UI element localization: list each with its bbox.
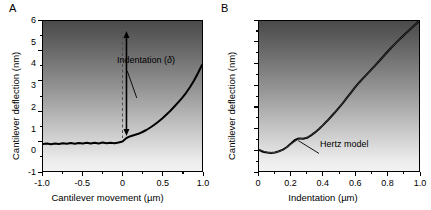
panel-b-x-axis-label: Indentation (µm) [215, 192, 431, 203]
panel-a-data-layer [43, 21, 202, 171]
y-axis-minor-tick [256, 117, 258, 118]
x-axis-tick [122, 172, 123, 176]
y-axis-tick [38, 80, 42, 81]
x-axis-tick [258, 172, 259, 176]
x-axis-tick-label: -1.0 [34, 178, 50, 188]
y-axis-tick [254, 150, 258, 151]
panel-a-x-axis-label: Cantilever movement (µm) [0, 192, 215, 203]
x-axis-minor-tick [306, 172, 307, 174]
y-axis-tick [254, 63, 258, 64]
indentation-annotation-text: Indentation ( [117, 55, 167, 65]
y-axis-tick [38, 20, 42, 21]
y-axis-minor-tick [40, 156, 42, 157]
y-axis-tick [38, 141, 42, 142]
y-axis-tick-label: 0 [31, 145, 36, 155]
y-axis-minor-tick [256, 30, 258, 31]
x-axis-tick [82, 172, 83, 176]
y-axis-tick-label: 3 [31, 80, 36, 90]
x-axis-minor-tick [182, 172, 183, 174]
x-axis-minor-tick [102, 172, 103, 174]
indentation-arrow-head-bottom [124, 129, 130, 136]
x-axis-minor-tick [274, 172, 275, 174]
panel-b-plot-area [258, 20, 420, 172]
y-axis-tick [254, 106, 258, 107]
x-axis-minor-tick [403, 172, 404, 174]
y-axis-tick-label: 1 [31, 124, 36, 134]
x-axis-tick-label: 0 [120, 178, 125, 188]
x-axis-tick-label: 0.8 [381, 178, 394, 188]
x-axis-tick-label: 1.0 [414, 178, 427, 188]
data-curve [259, 21, 419, 153]
x-axis-tick-label: 1.0 [197, 178, 210, 188]
y-axis-minor-tick [256, 52, 258, 53]
x-axis-tick-label: 0 [255, 178, 260, 188]
y-axis-minor-tick [40, 35, 42, 36]
x-axis-tick-label: 0.6 [349, 178, 362, 188]
x-axis-minor-tick [339, 172, 340, 174]
x-axis-tick [322, 172, 323, 176]
x-axis-tick [355, 172, 356, 176]
y-axis-tick [38, 111, 42, 112]
panel-b-y-axis-label: Cantilever deflection (nm) [226, 52, 237, 160]
y-axis-tick-label: 4 [31, 58, 36, 68]
x-axis-tick [162, 172, 163, 176]
y-axis-tick [38, 50, 42, 51]
panel-a-y-axis-label: Cantilever deflection (nm) [10, 52, 21, 160]
x-axis-tick [290, 172, 291, 176]
y-axis-tick [254, 85, 258, 86]
y-axis-minor-tick [256, 161, 258, 162]
indentation-annotation-close: ) [172, 55, 175, 65]
panel-a-indentation-annotation: Indentation (δ) [117, 55, 175, 65]
y-axis-minor-tick [40, 126, 42, 127]
y-axis-minor-tick [40, 65, 42, 66]
x-axis-minor-tick [142, 172, 143, 174]
data-curve [259, 21, 419, 153]
annotation-leader-line [298, 141, 319, 154]
x-axis-tick-label: 0.5 [156, 178, 169, 188]
panel-a-label: A [9, 2, 17, 14]
indentation-arrow-head-top [124, 31, 130, 38]
panel-b: B 6543210-100.20.40.60.81.0 Cantilever d… [215, 0, 431, 210]
x-axis-tick-label: 0.2 [284, 178, 297, 188]
y-axis-tick [254, 41, 258, 42]
x-axis-tick [420, 172, 421, 176]
y-axis-tick-label: 5 [31, 37, 36, 47]
y-axis-tick-label: 6 [31, 15, 36, 25]
y-axis-tick-label: 2 [31, 102, 36, 112]
annotation-leader-line [127, 71, 137, 98]
x-axis-tick-label: 0.4 [317, 178, 330, 188]
y-axis-minor-tick [256, 74, 258, 75]
figure-container: A 129630-3-1.0-0.500.51.0 Cantilever def… [0, 0, 431, 210]
x-axis-tick [203, 172, 204, 176]
y-axis-minor-tick [256, 139, 258, 140]
x-axis-minor-tick [371, 172, 372, 174]
x-axis-tick [387, 172, 388, 176]
x-axis-minor-tick [62, 172, 63, 174]
panel-b-label: B [221, 2, 229, 14]
y-axis-minor-tick [256, 96, 258, 97]
y-axis-minor-tick [40, 96, 42, 97]
y-axis-tick [254, 128, 258, 129]
y-axis-tick [254, 20, 258, 21]
panel-a-plot-area [42, 20, 203, 172]
x-axis-tick-label: -0.5 [74, 178, 90, 188]
y-axis-tick-label: -1 [28, 167, 36, 177]
x-axis-tick [42, 172, 43, 176]
panel-b-hertz-annotation: Hertz model [320, 139, 369, 149]
